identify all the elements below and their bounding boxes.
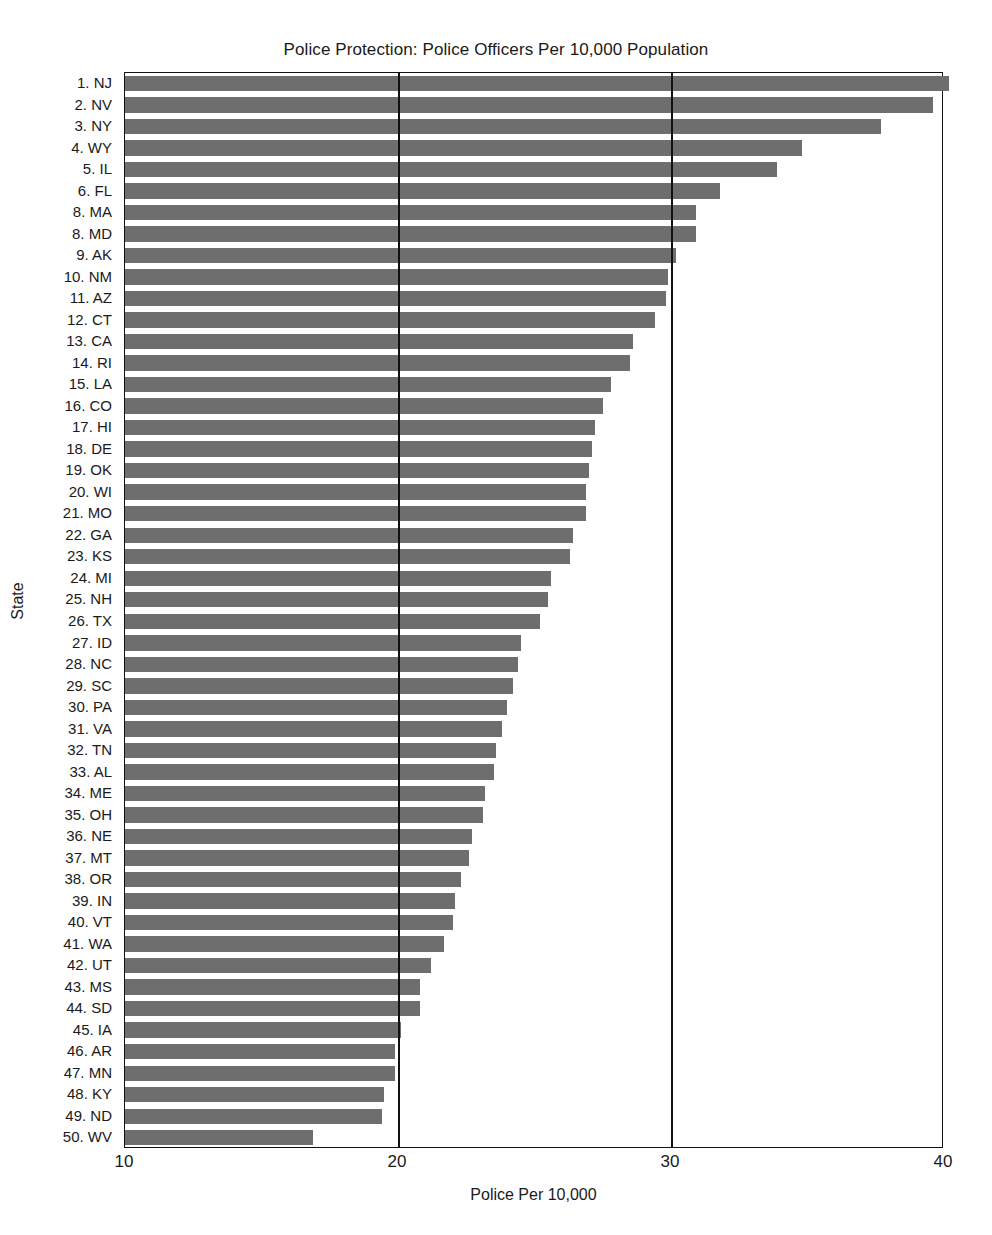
bar[interactable] [125, 1109, 382, 1124]
bar[interactable] [125, 657, 518, 672]
bar[interactable] [125, 743, 496, 758]
bar[interactable] [125, 786, 485, 801]
bar[interactable] [125, 850, 469, 865]
bar-row[interactable] [125, 396, 942, 418]
bar[interactable] [125, 312, 655, 327]
bar-row[interactable] [125, 525, 942, 547]
bar-row[interactable] [125, 955, 942, 977]
bar-row[interactable] [125, 568, 942, 590]
bar-row[interactable] [125, 353, 942, 375]
bar-row[interactable] [125, 482, 942, 504]
bar-row[interactable] [125, 224, 942, 246]
bar[interactable] [125, 958, 431, 973]
bar-row[interactable] [125, 998, 942, 1020]
bar-row[interactable] [125, 417, 942, 439]
bar-row[interactable] [125, 1063, 942, 1085]
bar[interactable] [125, 549, 570, 564]
bar-row[interactable] [125, 288, 942, 310]
bar-row[interactable] [125, 1106, 942, 1128]
bar[interactable] [125, 506, 586, 521]
bar[interactable] [125, 226, 696, 241]
bar-row[interactable] [125, 805, 942, 827]
bar-row[interactable] [125, 611, 942, 633]
bar[interactable] [125, 528, 573, 543]
bar-row[interactable] [125, 181, 942, 203]
bar[interactable] [125, 571, 551, 586]
bar-row[interactable] [125, 310, 942, 332]
bar-row[interactable] [125, 503, 942, 525]
bar[interactable] [125, 893, 455, 908]
bar[interactable] [125, 979, 420, 994]
bar-row[interactable] [125, 848, 942, 870]
bar[interactable] [125, 97, 933, 112]
bar[interactable] [125, 398, 603, 413]
bar[interactable] [125, 700, 507, 715]
bar[interactable] [125, 377, 611, 392]
bar[interactable] [125, 420, 595, 435]
bar-row[interactable] [125, 1020, 942, 1042]
bar[interactable] [125, 807, 483, 822]
bar[interactable] [125, 1001, 420, 1016]
bar-row[interactable] [125, 439, 942, 461]
bar-row[interactable] [125, 934, 942, 956]
bar[interactable] [125, 915, 453, 930]
bar-row[interactable] [125, 95, 942, 117]
bar[interactable] [125, 1066, 395, 1081]
bar-row[interactable] [125, 697, 942, 719]
bar-row[interactable] [125, 654, 942, 676]
bar[interactable] [125, 1044, 395, 1059]
bar[interactable] [125, 269, 668, 284]
bar-row[interactable] [125, 1127, 942, 1149]
bar-row[interactable] [125, 267, 942, 289]
bar-row[interactable] [125, 891, 942, 913]
bar-row[interactable] [125, 460, 942, 482]
bar-row[interactable] [125, 116, 942, 138]
bar[interactable] [125, 334, 633, 349]
bar-row[interactable] [125, 374, 942, 396]
bar-row[interactable] [125, 912, 942, 934]
bar-row[interactable] [125, 826, 942, 848]
bar-row[interactable] [125, 1041, 942, 1063]
bar[interactable] [125, 764, 494, 779]
bar-row[interactable] [125, 740, 942, 762]
bar-row[interactable] [125, 73, 942, 95]
bar[interactable] [125, 614, 540, 629]
bar-row[interactable] [125, 869, 942, 891]
bar[interactable] [125, 463, 589, 478]
bar[interactable] [125, 829, 472, 844]
bar-row[interactable] [125, 546, 942, 568]
bar[interactable] [125, 441, 592, 456]
bar[interactable] [125, 119, 881, 134]
bar[interactable] [125, 140, 802, 155]
bar[interactable] [125, 183, 720, 198]
bar-row[interactable] [125, 138, 942, 160]
bar-row[interactable] [125, 1084, 942, 1106]
bar[interactable] [125, 592, 548, 607]
bar-row[interactable] [125, 676, 942, 698]
bar-row[interactable] [125, 159, 942, 181]
bar[interactable] [125, 721, 502, 736]
bar[interactable] [125, 484, 586, 499]
bar[interactable] [125, 205, 696, 220]
bar[interactable] [125, 248, 676, 263]
bar[interactable] [125, 162, 777, 177]
bar[interactable] [125, 355, 630, 370]
bar-row[interactable] [125, 762, 942, 784]
bar-row[interactable] [125, 202, 942, 224]
bar-row[interactable] [125, 783, 942, 805]
bar[interactable] [125, 635, 521, 650]
bar-row[interactable] [125, 719, 942, 741]
bar-row[interactable] [125, 977, 942, 999]
bar[interactable] [125, 1022, 401, 1037]
bar-row[interactable] [125, 331, 942, 353]
bar[interactable] [125, 872, 461, 887]
bar[interactable] [125, 1087, 384, 1102]
bar[interactable] [125, 291, 666, 306]
bar[interactable] [125, 76, 949, 91]
bar[interactable] [125, 936, 444, 951]
bar[interactable] [125, 678, 513, 693]
bar-row[interactable] [125, 589, 942, 611]
bar-row[interactable] [125, 633, 942, 655]
bar-row[interactable] [125, 245, 942, 267]
bar[interactable] [125, 1130, 313, 1145]
